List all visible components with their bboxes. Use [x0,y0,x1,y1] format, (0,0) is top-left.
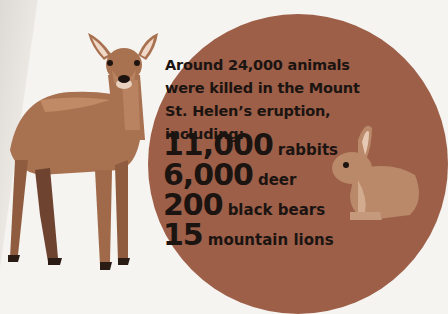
stat-number: 11,000 [163,130,273,160]
stat-number: 6,000 [163,160,253,190]
stats-list: 11,000 rabbits 6,000 deer 200 black bear… [163,130,338,250]
stat-black-bears: 200 black bears [163,190,338,220]
stat-label: rabbits [278,141,338,159]
stat-deer: 6,000 deer [163,160,338,190]
stat-rabbits: 11,000 rabbits [163,130,338,160]
stat-number: 200 [163,190,223,220]
stat-label: deer [258,171,296,189]
stat-label: black bears [228,201,325,219]
headline-line-1: Around 24,000 animals [165,54,405,77]
deer-illustration [0,0,180,274]
headline-line-2: were killed in the Mount [165,77,405,100]
stat-label: mountain lions [208,231,334,249]
stat-number: 15 [163,220,203,250]
stat-mountain-lions: 15 mountain lions [163,220,338,250]
